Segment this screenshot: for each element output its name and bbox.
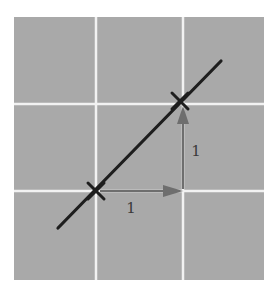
rise-label: 1 (191, 142, 201, 160)
grid-background (14, 17, 264, 280)
run-label: 1 (126, 199, 136, 217)
slope-diagram: 1 1 (0, 0, 264, 283)
